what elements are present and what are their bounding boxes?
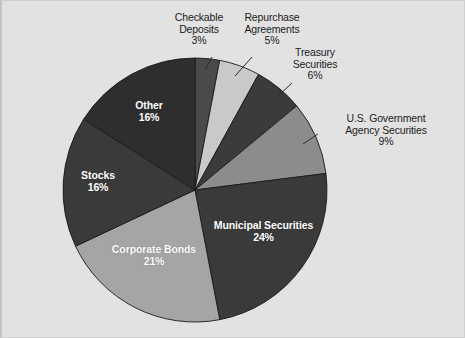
callout-repurchase-agreements: Repurchase Agreements 5%	[232, 12, 312, 47]
slice-label-municipal-securities: Municipal Securities 24%	[196, 219, 331, 243]
callout-checkable-deposits: Checkable Deposits 3%	[162, 12, 236, 47]
slice-label-stocks: Stocks 16%	[60, 169, 136, 193]
slice-label-corporate-bonds: Corporate Bonds 21%	[93, 243, 215, 267]
pie-chart-figure: Checkable Deposits 3% Repurchase Agreeme…	[0, 0, 465, 338]
callout-us-government-agency-securities: U.S. Government Agency Securities 9%	[320, 113, 452, 148]
slice-label-other: Other 16%	[113, 99, 185, 123]
callout-treasury-securities: Treasury Securities 6%	[278, 47, 352, 82]
